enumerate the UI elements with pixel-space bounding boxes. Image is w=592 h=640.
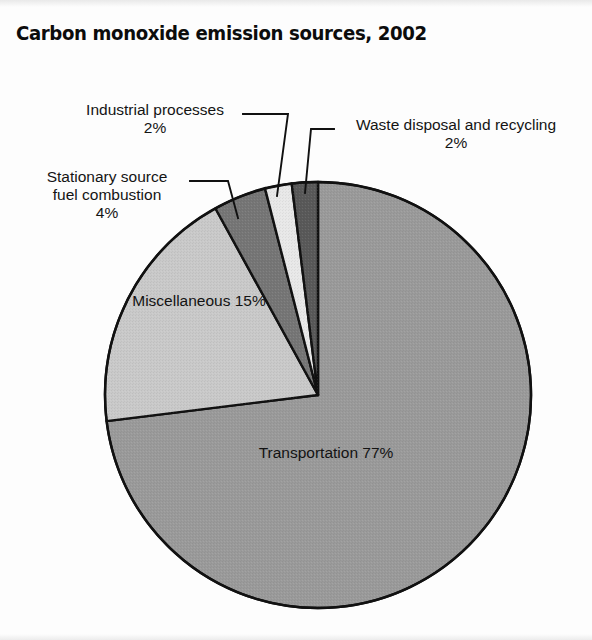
slice-label-miscellaneous-value: 15% <box>235 292 266 309</box>
slice-label-miscellaneous: Miscellaneous 15% <box>124 292 274 311</box>
slice-label-transportation: Transportation 77% <box>238 444 414 463</box>
slice-label-transportation-value: 77% <box>362 444 393 461</box>
slice-callout-waste-disposal: Waste disposal and recycling 2% <box>338 116 574 152</box>
pie-chart-svg <box>0 0 592 640</box>
chart-page: Carbon monoxide emission sources, 2002 <box>0 0 592 640</box>
slice-callout-stationary-source-line1: Stationary source <box>47 168 168 185</box>
pie-chart: Industrial processes 2% Stationary sourc… <box>0 0 592 640</box>
slice-callout-stationary-source-line2: fuel combustion <box>28 186 186 204</box>
slice-callout-waste-disposal-text: Waste disposal and recycling <box>356 116 556 133</box>
slice-callout-industrial-processes-text: Industrial processes <box>86 101 224 118</box>
slice-label-miscellaneous-text: Miscellaneous <box>132 292 230 309</box>
slice-callout-waste-disposal-value: 2% <box>338 134 574 152</box>
slice-callout-industrial-processes: Industrial processes 2% <box>70 101 240 137</box>
slice-label-transportation-text: Transportation <box>259 444 358 461</box>
slice-callout-stationary-source-value: 4% <box>28 204 186 222</box>
slice-callout-industrial-processes-value: 2% <box>70 119 240 137</box>
slice-callout-stationary-source: Stationary source fuel combustion 4% <box>28 168 186 222</box>
